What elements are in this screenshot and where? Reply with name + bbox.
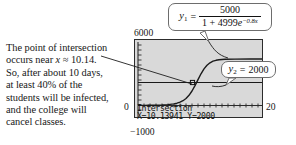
variable-x: x [56, 54, 61, 65]
axis-label-y-max: 6000 [134, 27, 153, 38]
explanation-line: occurs near x ≈ 10.14. [6, 54, 130, 66]
axis-label-x-min: 0 [124, 101, 129, 112]
explanation-text: The point of intersection occurs near x … [6, 42, 130, 129]
formula-y1-numerator: 5000 [217, 5, 243, 16]
axis-label-y-min: −1000 [130, 126, 155, 137]
formula-y1-fraction: 5000 1 + 4999e−0.8x [199, 5, 261, 28]
formula-y2: y2 = 2000 [229, 64, 269, 76]
explanation-line: cancel classes. [6, 116, 130, 128]
formula-y2-value: 2000 [248, 65, 268, 75]
callout-formula-y2: y2 = 2000 [221, 61, 276, 78]
explanation-line: So, after about 10 days, [6, 67, 130, 79]
calculator-readout-values: X=10.13941 Y=2000 [137, 111, 215, 121]
explanation-line: and the college will [6, 104, 130, 116]
formula-y1-denominator: 1 + 4999e−0.8x [199, 17, 261, 28]
formula-y1: y1 = 5000 1 + 4999e−0.8x [179, 5, 261, 28]
explanation-line: The point of intersection [6, 42, 130, 54]
formula-y1-variable: y1 [179, 11, 187, 23]
figure-container: The point of intersection occurs near x … [0, 0, 296, 145]
formula-y2-variable: y2 [229, 64, 237, 76]
callout-formula-y1: y1 = 5000 1 + 4999e−0.8x [168, 3, 272, 31]
explanation-line: students will be infected, [6, 92, 130, 104]
formula-y2-equals: = [240, 65, 246, 75]
explanation-line: at least 40% of the [6, 79, 130, 91]
formula-y1-equals: = [190, 12, 196, 22]
axis-label-x-max: 20 [266, 101, 276, 112]
